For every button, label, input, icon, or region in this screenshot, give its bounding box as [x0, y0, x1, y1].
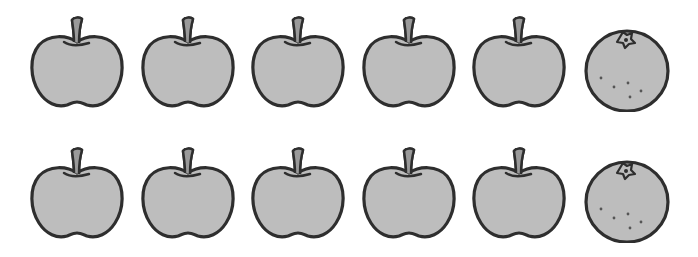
orange-icon [577, 143, 677, 243]
apple-icon [138, 12, 238, 112]
apple-icon [248, 12, 348, 112]
apple-icon [248, 143, 348, 243]
apple-icon [138, 143, 238, 243]
apple-icon [469, 143, 569, 243]
apple-icon [359, 12, 459, 112]
apple-icon [469, 12, 569, 112]
apple-icon [27, 143, 127, 243]
orange-icon [577, 12, 677, 112]
apple-icon [359, 143, 459, 243]
apple-icon [27, 12, 127, 112]
